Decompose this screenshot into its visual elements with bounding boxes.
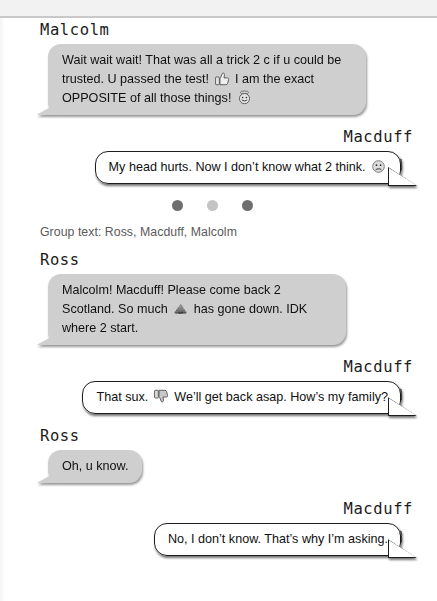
page-top-rule [0,16,437,18]
confused-face-icon [371,159,386,174]
halo-smiley-icon [237,90,252,105]
thumbs-down-icon [154,389,169,404]
message-bubble-malcolm-1[interactable]: Wait wait wait! That was all a trick 2 c… [48,44,366,115]
pile-of-poo-icon [173,301,188,316]
message-text-cont: We’ll get back asap. How’s my family? [174,390,388,404]
message-row: Oh, u know. [36,450,419,483]
message-text: That sux. [96,390,151,404]
message-text: My head hurts. Now I don’t know what 2 t… [109,160,366,174]
sender-label-ross-1: Ross [40,252,419,269]
message-row: Malcolm! Macduff! Please come back 2 Sco… [36,274,419,345]
bubble-tail-mark: \ [397,385,406,404]
page-top-band [0,0,437,16]
message-row: No, I don’t know. That’s why I’m asking.… [36,523,419,556]
sender-label-malcolm: Malcolm [40,22,419,39]
break-dot [207,200,218,211]
message-bubble-macduff-2[interactable]: That sux. We’ll get back asap. How’s my … [82,381,401,414]
message-row: Wait wait wait! That was all a trick 2 c… [36,44,419,115]
message-text: No, I don’t know. That’s why I’m asking. [168,532,388,546]
message-bubble-macduff-3[interactable]: No, I don’t know. That’s why I’m asking.… [154,523,401,556]
page-canvas: Malcolm Wait wait wait! That was all a t… [0,0,437,601]
message-bubble-ross-2[interactable]: Oh, u know. [48,450,142,483]
sender-label-ross-2: Ross [40,428,419,445]
message-bubble-ross-1[interactable]: Malcolm! Macduff! Please come back 2 Sco… [48,274,346,345]
bubble-tail-mark: \ [397,155,406,174]
section-break-dots [36,200,419,211]
sender-label-macduff-3: Macduff [36,501,413,518]
message-bubble-macduff-1[interactable]: My head hurts. Now I don’t know what 2 t… [95,151,401,184]
group-text-caption: Group text: Ross, Macduff, Malcolm [40,225,419,239]
message-row: My head hurts. Now I don’t know what 2 t… [36,151,419,184]
sender-label-macduff-2: Macduff [36,359,413,376]
break-dot [172,200,183,211]
bubble-tail-mark: \ [397,527,406,546]
thumbs-up-icon [215,71,230,86]
conversation-thread: Malcolm Wait wait wait! That was all a t… [0,22,437,601]
sender-label-macduff-1: Macduff [36,129,413,146]
message-row: That sux. We’ll get back asap. How’s my … [36,381,419,414]
break-dot [242,200,253,211]
message-text: Oh, u know. [62,459,129,473]
